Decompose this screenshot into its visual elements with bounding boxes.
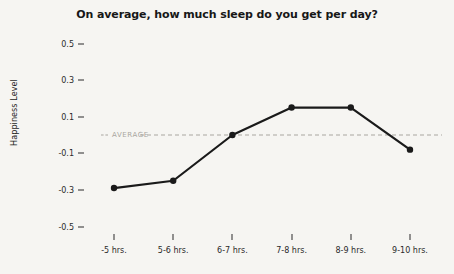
series-data-point bbox=[111, 185, 117, 191]
series-data-point bbox=[407, 146, 413, 152]
series-line-happiness bbox=[114, 108, 410, 189]
series-data-point bbox=[170, 178, 176, 184]
chart-container: On average, how much sleep do you get pe… bbox=[0, 0, 454, 274]
series-marker-group bbox=[111, 104, 413, 191]
plot-area bbox=[0, 0, 454, 274]
series-data-point bbox=[348, 104, 354, 110]
series-data-point bbox=[229, 132, 235, 138]
series-data-point bbox=[288, 104, 294, 110]
